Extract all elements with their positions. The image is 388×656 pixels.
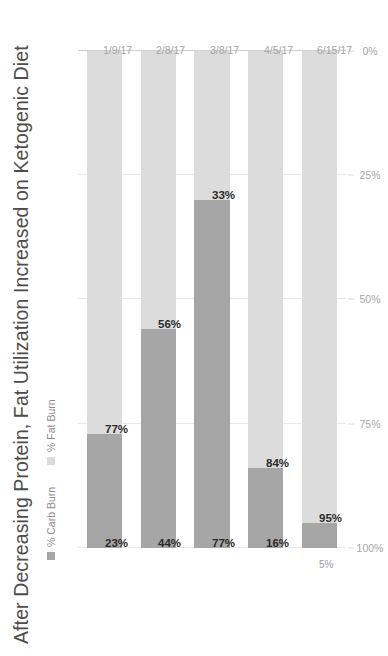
- y-tick-4/5/17: 4/5/17: [260, 4, 278, 44]
- x-tick-label: 0%: [362, 45, 377, 57]
- x-tick-75: 75%: [348, 413, 376, 434]
- bar-segment-fat-burn[interactable]: 84%: [248, 51, 283, 468]
- y-tick-1/9/17: 1/9/17: [99, 4, 117, 44]
- y-tick-3/8/17: 3/8/17: [206, 4, 224, 44]
- y-axis: 1/9/172/8/173/8/174/5/176/15/17: [78, 4, 346, 44]
- chart-legend: % Carb Burn % Fat Burn: [45, 399, 57, 560]
- legend-label-carb-burn: % Carb Burn: [45, 487, 57, 547]
- bar-row[interactable]: 77%33%: [194, 51, 229, 548]
- x-tick-mark: [348, 299, 354, 300]
- x-tick-label: 25%: [359, 169, 380, 181]
- x-tick-25: 25%: [348, 165, 376, 186]
- x-tick-mark: [348, 423, 354, 424]
- bar-segment-carb-burn[interactable]: 23%: [87, 434, 122, 548]
- bar-segment-fat-burn[interactable]: 77%: [87, 51, 122, 434]
- bar-label-fat-burn: 84%: [266, 457, 289, 469]
- x-tick-100: 100%: [348, 535, 376, 562]
- bar-segment-fat-burn[interactable]: 95%: [302, 51, 337, 523]
- legend-swatch-carb-burn: [47, 552, 55, 560]
- plot-area: 23%77%44%56%77%33%16%84%5%95%: [78, 51, 346, 548]
- bar-row[interactable]: 23%77%: [87, 51, 122, 548]
- legend-item-carb-burn[interactable]: % Carb Burn: [45, 487, 57, 560]
- bar-series-container: 23%77%44%56%77%33%16%84%5%95%: [78, 51, 346, 548]
- bar-label-fat-burn: 56%: [158, 318, 181, 330]
- y-tick-label: 3/8/17: [210, 44, 239, 56]
- y-tick-label: 4/5/17: [264, 44, 293, 56]
- y-tick-label: 6/15/17: [317, 44, 352, 56]
- bar-row[interactable]: 5%95%: [302, 51, 337, 548]
- x-tick-0: 0%: [348, 43, 376, 58]
- bar-row[interactable]: 44%56%: [141, 51, 176, 548]
- bar-label-fat-burn: 33%: [212, 189, 235, 201]
- bar-label-carb-burn: 16%: [266, 537, 289, 549]
- chart-title: After Decreasing Protein, Fat Utilizatio…: [10, 14, 33, 644]
- legend-label-fat-burn: % Fat Burn: [45, 399, 57, 452]
- bar-label-carb-burn: 5%: [319, 559, 333, 570]
- bar-segment-carb-burn[interactable]: 77%: [194, 200, 229, 548]
- bar-label-fat-burn: 77%: [105, 423, 128, 435]
- bar-label-fat-burn: 95%: [319, 512, 342, 524]
- bar-segment-carb-burn[interactable]: 5%: [302, 523, 337, 548]
- y-tick-label: 2/8/17: [156, 44, 185, 56]
- bar-segment-fat-burn[interactable]: 33%: [194, 51, 229, 200]
- x-tick-label: 50%: [359, 294, 380, 306]
- legend-item-fat-burn[interactable]: % Fat Burn: [45, 399, 57, 465]
- y-tick-label: 1/9/17: [103, 44, 132, 56]
- x-tick-50: 50%: [348, 289, 376, 310]
- y-tick-2/8/17: 2/8/17: [152, 4, 170, 44]
- x-tick-label: 75%: [359, 418, 380, 430]
- legend-swatch-fat-burn: [47, 457, 55, 465]
- bar-segment-carb-burn[interactable]: 44%: [141, 329, 176, 548]
- bar-label-carb-burn: 77%: [212, 537, 235, 549]
- x-tick-mark: [348, 548, 354, 549]
- bar-segment-fat-burn[interactable]: 56%: [141, 51, 176, 329]
- x-tick-label: 100%: [357, 542, 384, 554]
- bar-label-carb-burn: 44%: [158, 537, 181, 549]
- bar-label-carb-burn: 23%: [105, 537, 128, 549]
- x-axis: 0%25%50%75%100%: [348, 51, 388, 548]
- bar-row[interactable]: 16%84%: [248, 51, 283, 548]
- bar-segment-carb-burn[interactable]: 16%: [248, 468, 283, 548]
- x-tick-mark: [348, 175, 354, 176]
- y-tick-6/15/17: 6/15/17: [313, 4, 331, 44]
